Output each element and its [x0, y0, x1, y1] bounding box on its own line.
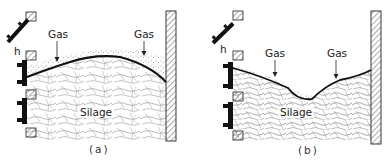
caption-a: (a) [89, 143, 110, 155]
wall-block-a-2 [26, 51, 36, 60]
wall-block-b-3 [233, 92, 243, 101]
panel-a: h Gas Gas Silage (a) [4, 11, 176, 155]
wall-block-a-4 [26, 128, 36, 137]
right-wall-a [166, 11, 176, 141]
lever-icon [210, 20, 235, 44]
gas-label-a-right: Gas [134, 28, 154, 40]
silage-body-b [233, 68, 371, 140]
wall-block-b-1 [233, 11, 243, 20]
caption-b: (b) [298, 144, 319, 156]
panel-b: h Gas Gas Silage (b) [210, 11, 381, 156]
height-marker-a: h [14, 45, 21, 57]
wall-block-b-4 [233, 131, 243, 140]
lever-icon [4, 16, 29, 43]
gas-label-b-left: Gas [265, 47, 285, 59]
right-wall-b [371, 11, 381, 144]
clamp-icon [17, 60, 27, 124]
gas-label-a-left: Gas [48, 28, 68, 40]
wall-block-a-3 [26, 90, 36, 99]
height-marker-b: h [220, 43, 227, 55]
clamp-icon [223, 62, 233, 129]
arrow-head-icon [334, 74, 339, 79]
wall-block-b-2 [233, 51, 243, 60]
gas-label-b-right: Gas [327, 47, 347, 59]
silage-diagram: h Gas Gas Silage (a) [0, 0, 388, 163]
silage-label-a: Silage [80, 106, 112, 118]
arrow-head-icon [273, 72, 278, 77]
silage-label-b: Silage [280, 106, 312, 118]
